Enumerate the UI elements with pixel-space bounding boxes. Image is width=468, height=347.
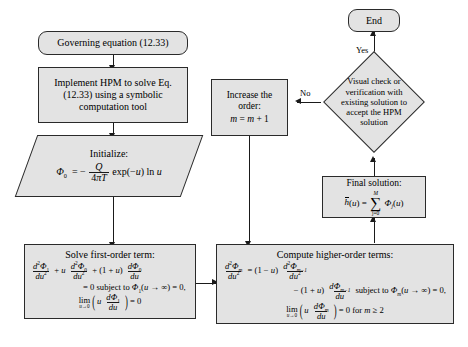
edge-label-no: No <box>299 88 311 98</box>
node-solve-first-order-title: Solve first-order term: <box>30 249 190 261</box>
arrowhead-final-solution-to-visual-check <box>370 156 376 162</box>
node-implement-hpm-line2: (12.33) using a symbolic <box>63 89 162 101</box>
node-visual-check-line4: accept the HPM <box>346 107 401 117</box>
node-end[interactable]: End <box>348 9 400 32</box>
flowchart-canvas: Yes No Governing equation (12.33) Implem… <box>0 0 468 347</box>
node-solve-first-order[interactable]: Solve first-order term: d2Φ1du2 + u d2Φ0… <box>24 244 196 319</box>
node-implement-hpm-line3: computation tool <box>79 101 147 113</box>
node-visual-check-line5: solution <box>360 117 388 127</box>
node-compute-higher-order[interactable]: Compute higher-order terms: d2Φmdu2 = (1… <box>216 244 454 324</box>
fraction-q-over-4piT: Q 4πT <box>89 162 109 184</box>
node-compute-higher-order-eq2: − (1 + u) dΦm−1du subject to Φm(u → ∞) =… <box>222 282 448 301</box>
node-initialize-equation: Φ0 = − Q 4πT exp(−u) ln u <box>56 162 162 184</box>
arrowhead-visual-check-to-increase-order <box>295 98 301 104</box>
node-end-label: End <box>366 15 382 27</box>
node-visual-check: Visual check or verification with existi… <box>322 66 426 138</box>
summation-lower-limit: j=0 <box>372 211 379 216</box>
node-solve-first-order-eq1: d2Φ1du2 + u d2Φ0du2 + (1 + u) dΦ0du <box>30 262 190 281</box>
node-increase-order-line3: m = m + 1 <box>230 114 269 125</box>
node-compute-higher-order-title: Compute higher-order terms: <box>222 249 448 261</box>
node-increase-order-line1: Increase the <box>227 90 273 101</box>
node-increase-order[interactable]: Increase the order: m = m + 1 <box>211 79 288 136</box>
node-governing-equation[interactable]: Governing equation (12.33) <box>38 31 188 55</box>
node-initialize: Initialize: Φ0 = − Q 4πT exp(−u) ln u <box>26 135 192 197</box>
edge-label-yes: Yes <box>355 45 369 55</box>
node-visual-check-line2: verification with <box>345 87 402 97</box>
node-governing-equation-label: Governing equation (12.33) <box>57 37 168 49</box>
summation-symbol: M ∑ j=0 <box>370 191 381 216</box>
node-initialize-label: Initialize: <box>90 148 128 160</box>
node-solve-first-order-eq2: = 0 subject to Φ1(u → ∞) = 0, <box>30 282 190 292</box>
node-visual-check-line3: existing solution to <box>341 97 407 107</box>
node-visual-check-line1: Visual check or <box>347 76 400 86</box>
node-compute-higher-order-eq3: limu→0 ( u dΦmdu ) = 0 for m ≥ 2 <box>222 302 448 321</box>
node-solve-first-order-eq3: limu→0 ( u dΦ1du ) = 0 <box>30 293 190 312</box>
node-implement-hpm[interactable]: Implement HPM to solve Eq. (12.33) using… <box>38 67 188 123</box>
node-increase-order-line2: order: <box>238 101 261 112</box>
node-compute-higher-order-eq1: d2Φmdu2 = (1 − u) d2Φm−1du2 <box>222 262 448 281</box>
node-implement-hpm-line1: Implement HPM to solve Eq. <box>54 77 172 89</box>
node-final-solution-title: Final solution: <box>346 178 401 189</box>
node-final-solution-equation: h(u) = M ∑ j=0 Φj(u) <box>345 191 404 216</box>
edge-increase-order-to-higher-order <box>249 136 250 243</box>
node-final-solution[interactable]: Final solution: h(u) = M ∑ j=0 Φj(u) <box>322 176 426 218</box>
edge-initialize-to-first-order <box>113 196 114 244</box>
